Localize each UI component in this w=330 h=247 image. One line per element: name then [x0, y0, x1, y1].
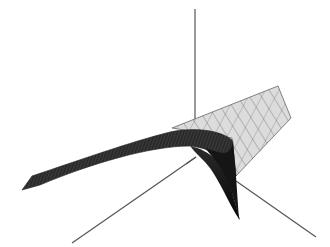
x-axis-line-front — [186, 157, 196, 164]
surface-plot-svg — [0, 0, 330, 247]
surface-cusp — [190, 140, 240, 220]
y-axis-line — [236, 181, 316, 237]
x-axis-line — [72, 157, 196, 243]
surface-plot — [0, 0, 330, 247]
